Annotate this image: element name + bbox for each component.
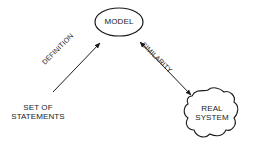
statements-node-label: SET OF STATEMENTS bbox=[7, 103, 69, 121]
model-node-label: MODEL bbox=[95, 17, 143, 26]
real-system-line1: REAL bbox=[190, 104, 234, 113]
statements-line2: STATEMENTS bbox=[7, 112, 69, 121]
real-system-node-label: REAL SYSTEM bbox=[190, 104, 234, 122]
statements-line1: SET OF bbox=[7, 103, 69, 112]
real-system-line2: SYSTEM bbox=[190, 113, 234, 122]
